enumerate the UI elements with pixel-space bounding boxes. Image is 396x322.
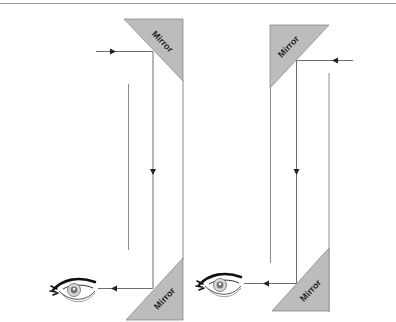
arrow-right-icon	[110, 49, 116, 55]
arrow-left-icon	[332, 58, 338, 64]
arrow-left-icon	[263, 281, 269, 287]
right-bottom-mirror: Mirror	[272, 248, 329, 311]
mirror-shape	[272, 248, 329, 311]
arrow-left-icon	[111, 286, 117, 292]
arrow-down-icon	[150, 169, 156, 175]
periscope-diagram: Mirror Mirror	[0, 0, 396, 322]
right-top-mirror: Mirror	[270, 25, 329, 88]
right-periscope: Mirror Mirror	[196, 25, 353, 312]
arrow-down-icon	[294, 169, 300, 175]
eye-icon	[196, 274, 241, 297]
left-periscope: Mirror Mirror	[50, 19, 183, 320]
eye-icon	[50, 279, 95, 302]
